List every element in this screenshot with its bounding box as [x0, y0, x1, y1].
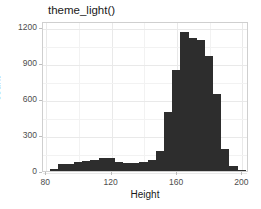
x-tick-label: 80 [25, 177, 65, 187]
histogram-bars [43, 23, 247, 171]
y-tick-label: 0 [32, 166, 37, 176]
histogram-bar [205, 56, 213, 171]
x-tick-label: 160 [156, 177, 196, 187]
y-tick-mark [39, 28, 42, 29]
x-tick-label: 120 [91, 177, 131, 187]
histogram-bar [115, 162, 123, 171]
y-tick-label: 300 [23, 130, 37, 140]
chart-figure: theme_light() count 80120160200030060090… [0, 0, 261, 209]
histogram-bar [172, 70, 180, 171]
y-tick-mark [39, 64, 42, 65]
y-tick-mark [39, 172, 42, 173]
histogram-bar [139, 162, 147, 171]
histogram-bar [213, 94, 221, 171]
histogram-bar [66, 164, 74, 171]
x-tick-mark [45, 172, 46, 175]
histogram-bar [238, 170, 246, 171]
histogram-bar [131, 163, 139, 171]
y-tick-label: 900 [23, 58, 37, 68]
histogram-bar [221, 149, 229, 171]
x-tick-mark [176, 172, 177, 175]
x-tick-label: 200 [221, 177, 261, 187]
histogram-bar [197, 40, 205, 171]
histogram-bar [90, 160, 98, 171]
histogram-bar [164, 112, 172, 171]
histogram-bar [156, 151, 164, 171]
histogram-bar [107, 158, 115, 171]
y-tick-mark [39, 136, 42, 137]
plot-panel [42, 22, 248, 172]
histogram-bar [229, 166, 237, 171]
histogram-bar [123, 163, 131, 171]
y-tick-label: 1200 [18, 22, 37, 32]
histogram-bar [58, 164, 66, 171]
histogram-bar [189, 38, 197, 171]
y-gridline [43, 173, 247, 174]
histogram-bar [50, 169, 58, 171]
histogram-bar [148, 160, 156, 171]
y-tick-mark [39, 100, 42, 101]
y-tick-label: 600 [23, 94, 37, 104]
histogram-bar [99, 158, 107, 171]
x-tick-mark [111, 172, 112, 175]
x-tick-mark [241, 172, 242, 175]
histogram-bar [180, 32, 188, 171]
y-axis-label: count [0, 76, 2, 100]
x-axis-label: Height [42, 189, 248, 200]
chart-title: theme_light() [48, 4, 115, 16]
histogram-bar [82, 161, 90, 171]
histogram-bar [74, 162, 82, 171]
